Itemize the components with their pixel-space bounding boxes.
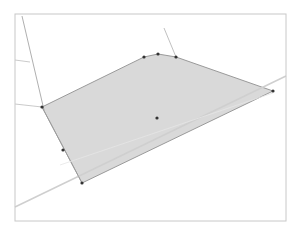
- point-marker[interactable]: [80, 181, 83, 184]
- construction-line[interactable]: [15, 60, 30, 62]
- point-marker[interactable]: [142, 55, 145, 58]
- construction-line[interactable]: [22, 16, 44, 110]
- construction-line[interactable]: [15, 104, 42, 107]
- point-marker[interactable]: [61, 148, 64, 151]
- construction-line[interactable]: [164, 28, 176, 57]
- point-marker[interactable]: [40, 105, 43, 108]
- point-marker[interactable]: [174, 55, 177, 58]
- point-marker[interactable]: [271, 89, 274, 92]
- point-marker[interactable]: [156, 52, 159, 55]
- point-marker[interactable]: [155, 116, 158, 119]
- geometry-canvas[interactable]: [0, 0, 300, 231]
